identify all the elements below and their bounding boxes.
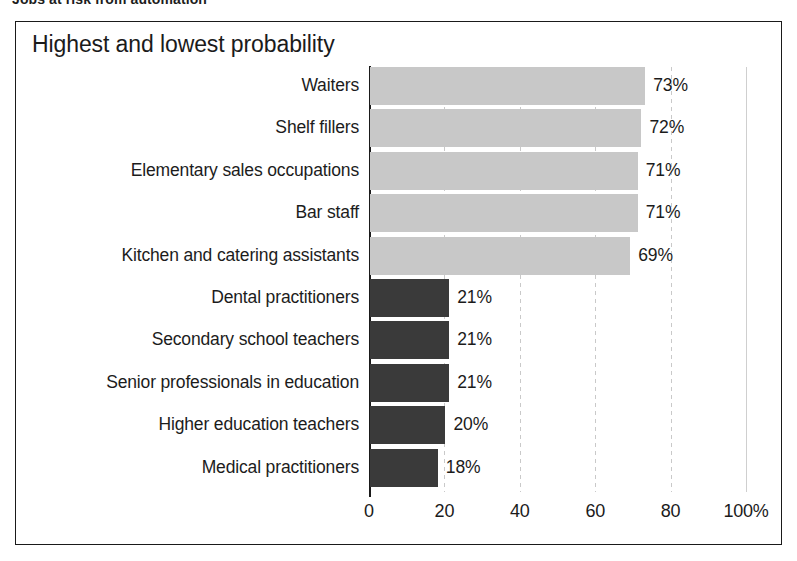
bar-row: Bar staff71% [16,194,783,236]
bar-category-label: Waiters [301,75,359,96]
x-tick-label-60: 60 [585,501,605,522]
x-tick-label-100: 100% [723,501,768,522]
bar-category-label: Shelf fillers [275,117,359,138]
x-tick-label-20: 20 [435,501,455,522]
plot-area: Waiters73%Shelf fillers72%Elementary sal… [16,22,783,546]
bar-row: Dental practitioners21% [16,279,783,321]
bar [370,449,438,487]
figure-heading: Jobs at risk from automation [12,0,207,7]
chart-frame: Highest and lowest probability Waiters73… [15,21,782,545]
bar-category-label: Senior professionals in education [106,372,359,393]
bar-row: Elementary sales occupations71% [16,152,783,194]
bar-value-label: 20% [453,414,488,435]
x-tick-label-40: 40 [510,501,530,522]
bar-row: Shelf fillers72% [16,109,783,151]
bar [370,321,449,359]
bar-row: Medical practitioners18% [16,449,783,491]
bar [370,279,449,317]
bar [370,67,645,105]
x-tick-label-80: 80 [661,501,681,522]
bar-row: Higher education teachers20% [16,406,783,448]
bar-value-label: 21% [457,329,492,350]
bar [370,109,641,147]
bar-category-label: Medical practitioners [202,457,359,478]
bar-value-label: 21% [457,372,492,393]
bar-row: Senior professionals in education21% [16,364,783,406]
bar-category-label: Higher education teachers [158,414,359,435]
bar-value-label: 73% [653,75,688,96]
bar-category-label: Bar staff [296,202,360,223]
bar-category-label: Kitchen and catering assistants [121,245,359,266]
bar [370,237,630,275]
bar-value-label: 71% [646,202,681,223]
bar-category-label: Elementary sales occupations [131,160,359,181]
x-tick-label-0: 0 [364,501,374,522]
bar-value-label: 21% [457,287,492,308]
bar [370,152,638,190]
bar-category-label: Dental practitioners [211,287,359,308]
bar-value-label: 71% [646,160,681,181]
bar-category-label: Secondary school teachers [152,329,359,350]
bar-row: Secondary school teachers21% [16,321,783,363]
bar [370,194,638,232]
bar [370,364,449,402]
bar-row: Kitchen and catering assistants69% [16,237,783,279]
bar-value-label: 72% [649,117,684,138]
bar-value-label: 18% [446,457,481,478]
bar [370,406,445,444]
bar-value-label: 69% [638,245,673,266]
bar-row: Waiters73% [16,67,783,109]
